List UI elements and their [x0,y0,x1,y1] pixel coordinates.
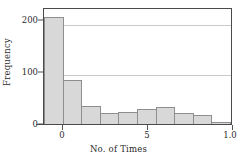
x-tick-label: 1.0 [223,131,237,140]
x-tick-label: 0 [59,131,64,140]
x-axis-line [43,124,232,125]
histogram-figure: Frequency 0 100 200 0 5 1 [0,0,237,156]
y-tick-label: 200 [14,16,38,25]
bar [193,115,213,124]
bar [81,106,101,124]
bar [118,112,138,124]
bar [174,113,194,124]
x-axis-title: No. of Times [0,144,237,154]
x-tick-label: 5 [144,131,149,140]
bar [156,107,176,124]
y-axis-title-text: Frequency [2,38,12,86]
plot-area [43,8,232,124]
bar [137,109,157,124]
bar-group [44,9,231,124]
y-axis-tick-labels: 0 100 200 [12,0,38,156]
bar [44,17,64,124]
y-tick-label: 0 [14,120,38,129]
y-tick-label: 100 [14,68,38,77]
bar [63,80,83,124]
bar [100,113,120,124]
